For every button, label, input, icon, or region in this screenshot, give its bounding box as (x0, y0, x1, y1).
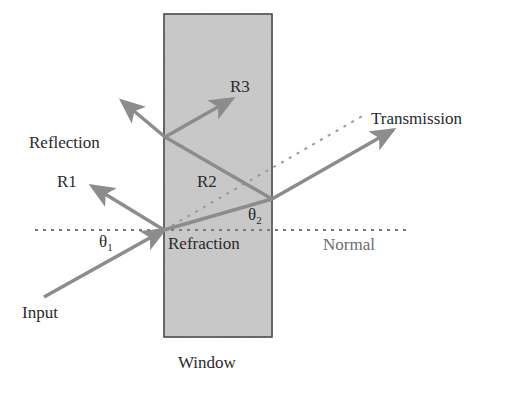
theta1-subscript: 1 (107, 241, 113, 253)
r3-label: R3 (230, 77, 250, 96)
reflection-label: Reflection (29, 133, 100, 152)
window-label: Window (178, 353, 237, 372)
theta2-subscript: 2 (256, 214, 262, 226)
window-slab (164, 14, 272, 337)
theta1-symbol: θ (99, 232, 107, 251)
normal-label: Normal (323, 235, 375, 254)
theta2-symbol: θ (248, 205, 256, 224)
r2-label: R2 (197, 172, 217, 191)
transmission-arrow (272, 130, 393, 199)
theta1-label: θ1 (99, 232, 113, 253)
refraction-label: Refraction (168, 234, 240, 253)
reflection-arrow (122, 101, 165, 137)
r1-reflection-arrow (92, 186, 164, 230)
r1-label: R1 (57, 172, 77, 191)
input-label: Input (22, 303, 58, 322)
optics-window-diagram: R3 Transmission Reflection R1 R2 θ2 θ1 R… (0, 0, 530, 394)
transmission-label: Transmission (371, 109, 463, 128)
